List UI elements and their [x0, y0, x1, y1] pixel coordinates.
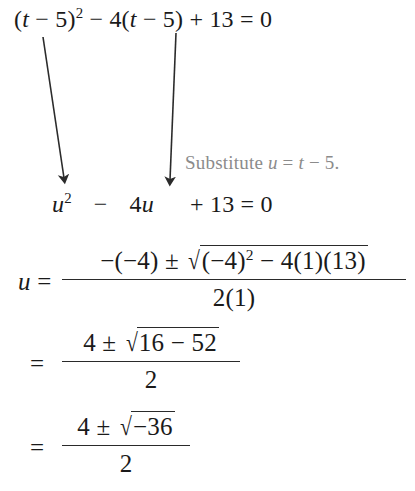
radicand-factor-thirteen: (13) [323, 247, 365, 274]
num-plus-minus: ± [96, 329, 123, 356]
radicand: (−4)2 − 4(1)(13) [200, 245, 368, 275]
sub-equals-sign: = [241, 191, 255, 217]
radicand-exponent: 2 [246, 246, 254, 263]
num-neg-four: −4 [123, 247, 150, 274]
substitute-label: Substitute [185, 152, 268, 173]
radicand: 16 − 52 [137, 327, 219, 357]
note-variable-u: u [268, 152, 278, 173]
num-four: 4 [83, 329, 96, 356]
num-four: 4 [77, 413, 90, 440]
quadratic-formula-lhs: u = [18, 268, 51, 296]
radicand-four: 4 [281, 247, 294, 274]
equals-sign: = [234, 6, 260, 32]
quadratic-formula-denominator: 2(1) [62, 282, 406, 312]
sub-plus-operator: + [190, 191, 204, 217]
quadratic-formula-numerator: −(−4) ± √(−4)2 − 4(1)(13) [62, 245, 406, 276]
simplify-step-2-equals: = [30, 434, 44, 462]
constant-five: 5 [55, 6, 67, 32]
num-plus-minus: ± [90, 413, 117, 440]
minus-operator: − [29, 6, 55, 32]
radicand-close-paren: ) [237, 247, 246, 274]
simplify-2-denominator: 2 [62, 448, 190, 478]
square-root: √(−4)2 − 4(1)(13) [185, 245, 367, 276]
simplify-1-denominator: 2 [62, 364, 240, 394]
radical-sign-icon: √ [188, 246, 200, 276]
constant-zero: 0 [260, 6, 272, 32]
minus-operator-2: − [83, 6, 109, 32]
simplify-1-numerator: 4 ± √16 − 52 [62, 327, 240, 358]
radicand-open-paren: ( [202, 247, 211, 274]
constant-thirteen: 13 [209, 6, 233, 32]
note-minus: − [304, 152, 325, 173]
close-paren-2: ) [175, 6, 183, 32]
formula-variable-u: u [18, 268, 31, 295]
num-neg-close: ) [150, 247, 159, 274]
simplify-step-1-fraction: 4 ± √16 − 52 2 [62, 327, 240, 394]
plus-operator: + [183, 6, 209, 32]
open-paren-2: ( [122, 6, 130, 32]
substitute-note: Substitute u = t − 5. [185, 152, 339, 174]
radical-sign-icon: √ [126, 328, 138, 358]
substitution-arrow-right [170, 33, 176, 180]
quadratic-formula-fraction: −(−4) ± √(−4)2 − 4(1)(13) 2(1) [62, 245, 406, 312]
note-five: 5 [325, 152, 335, 173]
simplify-2-numerator: 4 ± √−36 [62, 411, 190, 442]
radicand-minus: − [164, 329, 191, 356]
coefficient-four: 4 [109, 6, 121, 32]
num-plus-minus: ± [159, 247, 186, 274]
fraction-bar [62, 279, 406, 280]
sub-variable-u-2: u [142, 191, 154, 217]
note-equals: = [278, 152, 299, 173]
constant-five-2: 5 [163, 6, 175, 32]
original-equation: (t − 5)2 − 4(t − 5) + 13 = 0 [14, 6, 272, 33]
radicand: −36 [131, 411, 175, 441]
radical-sign-icon: √ [120, 412, 132, 442]
square-root: √−36 [117, 411, 175, 442]
formula-equals-sign: = [37, 268, 51, 295]
radicand-minus: − [254, 247, 281, 274]
radicand-sixteen: 16 [139, 329, 164, 356]
substituted-equation: u2−4u+ 13 = 0 [52, 191, 273, 218]
radicand-fifty-two: 52 [191, 329, 216, 356]
note-period: . [335, 152, 340, 173]
sub-constant-thirteen: 13 [210, 191, 234, 217]
close-paren: ) [67, 6, 75, 32]
sub-minus-operator: − [94, 191, 108, 217]
num-neg-open: −( [100, 247, 123, 274]
open-paren: ( [14, 6, 22, 32]
square-root: √16 − 52 [123, 327, 219, 358]
radicand-neg-four: −4 [210, 247, 237, 274]
sub-coefficient-four: 4 [130, 191, 142, 217]
minus-operator-3: − [137, 6, 163, 32]
simplify-step-2-fraction: 4 ± √−36 2 [62, 411, 190, 478]
worked-example-canvas: (t − 5)2 − 4(t − 5) + 13 = 0 Substitute … [0, 0, 415, 491]
fraction-bar [62, 445, 190, 446]
sub-exponent-two: 2 [64, 190, 72, 206]
sub-variable-u: u [52, 191, 64, 217]
radicand-factor-one: (1) [294, 247, 324, 274]
fraction-bar [62, 361, 240, 362]
sub-constant-zero: 0 [261, 191, 273, 217]
simplify-step-1-equals: = [30, 350, 44, 378]
substitution-arrow-left [43, 37, 64, 178]
variable-t-2: t [130, 6, 137, 32]
